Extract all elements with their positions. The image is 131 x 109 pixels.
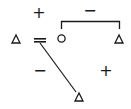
male-right-triangle-icon <box>115 35 123 43</box>
sign-bottom-left: − <box>33 61 46 80</box>
kinship-diagram: + − − + <box>0 0 131 109</box>
male-bottom-triangle-icon <box>75 93 83 101</box>
female-circle-icon <box>58 35 65 42</box>
sign-top-right: − <box>83 1 96 20</box>
sign-top-left: + <box>32 3 45 22</box>
male-left-triangle-icon <box>12 35 20 43</box>
sign-bottom-right: + <box>99 61 112 80</box>
sibling-bracket <box>62 22 120 30</box>
marriage-equals-sign <box>34 38 46 43</box>
